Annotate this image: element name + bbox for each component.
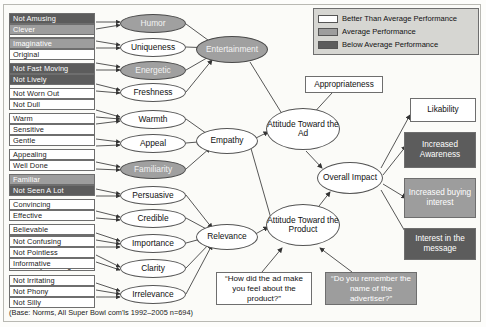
attribute-box[interactable]: Not Phony xyxy=(9,286,95,297)
factor-node-clarity[interactable]: Clarity xyxy=(120,259,186,278)
factor-node-warmth[interactable]: Warmth xyxy=(120,110,186,129)
factor-node-freshness[interactable]: Freshness xyxy=(120,83,186,102)
attribute-box[interactable]: Believable xyxy=(9,224,95,235)
attribute-box[interactable]: Gentle xyxy=(9,135,95,146)
attribute-label: Well Done xyxy=(13,162,48,169)
attribute-label: Informative xyxy=(13,260,51,267)
outcome-label: Increased Awareness xyxy=(405,140,475,159)
attribute-label: Not Lively xyxy=(13,76,46,83)
attitude-node-product[interactable]: Attitude Toward the Product xyxy=(266,204,340,246)
dimension-node-empathy[interactable]: Empathy xyxy=(196,128,258,154)
factor-node-humor[interactable]: Humor xyxy=(120,14,186,33)
attribute-box[interactable]: Not Silly xyxy=(9,297,95,308)
factor-label: Freshness xyxy=(133,88,172,97)
question-box-remember-advertiser[interactable]: “Do you remember the name of the adverti… xyxy=(325,272,417,305)
attribute-label: Gentle xyxy=(13,137,35,144)
attribute-box[interactable]: Not Worn Out xyxy=(9,88,95,99)
outcome-label: Interest in the message xyxy=(405,234,475,253)
outcome-box-interest-in-the-message[interactable]: Interest in the message xyxy=(404,228,476,260)
attribute-box[interactable]: Not Pointless xyxy=(9,247,95,258)
outcome-label: Increased buying interest xyxy=(405,188,475,207)
factor-label: Credible xyxy=(137,214,168,223)
outcome-box-likability[interactable]: Likability xyxy=(410,98,476,122)
attribute-box[interactable]: Not Confusing xyxy=(9,236,95,247)
attribute-box[interactable]: Not Irritating xyxy=(9,275,95,286)
factor-node-uniqueness[interactable]: Uniqueness xyxy=(120,38,186,57)
attribute-label: Clever xyxy=(13,26,35,33)
attribute-box[interactable]: Warm xyxy=(9,113,95,124)
legend-label: Below Average Performance xyxy=(342,40,438,49)
attribute-box[interactable]: Original xyxy=(9,49,95,60)
factor-label: Energetic xyxy=(135,66,170,75)
attribute-label: Not Phony xyxy=(13,288,48,295)
factor-node-familiarity[interactable]: Familiarity xyxy=(120,160,186,179)
attribute-box[interactable]: Not Dull xyxy=(9,99,95,110)
attribute-label: Sensitive xyxy=(13,126,44,133)
attribute-label: Not Worn Out xyxy=(13,90,59,97)
attribute-label: Not Irritating xyxy=(13,277,55,284)
legend: Better Than Average Performance Average … xyxy=(313,8,479,55)
attribute-box[interactable]: Not Fast Moving xyxy=(9,63,95,74)
attribute-label: Not Silly xyxy=(13,299,41,306)
attribute-box[interactable]: Appealing xyxy=(9,149,95,160)
attitude-node-ad[interactable]: Attitude Toward the Ad xyxy=(266,108,340,150)
attitude-label: Attitude Toward the Product xyxy=(267,216,339,235)
factor-label: Warmth xyxy=(138,115,167,124)
dimension-label: Empathy xyxy=(210,136,243,145)
factor-node-appeal[interactable]: Appeal xyxy=(120,134,186,153)
factor-node-energetic[interactable]: Energetic xyxy=(120,61,186,80)
attribute-label: Not Pointless xyxy=(13,249,58,256)
dimension-node-entertainment[interactable]: Entertainment xyxy=(196,36,268,63)
dimension-label: Entertainment xyxy=(206,45,258,54)
attribute-box[interactable]: Not Lively xyxy=(9,74,95,85)
attribute-label: Warm xyxy=(13,115,33,122)
factor-label: Clarity xyxy=(141,264,165,273)
outcome-box-increased-awareness[interactable]: Increased Awareness xyxy=(404,132,476,168)
outcome-box-increased-buying-interest[interactable]: Increased buying interest xyxy=(404,178,476,218)
legend-swatch-below-average xyxy=(318,41,338,49)
factor-label: Persuasive xyxy=(132,191,173,200)
question-label: “How did the ad make you feel about the … xyxy=(220,274,308,304)
factor-node-credible[interactable]: Credible xyxy=(120,209,186,228)
attribute-label: Not Amusing xyxy=(13,15,56,22)
question-label: “Do you remember the name of the adverti… xyxy=(329,274,413,304)
attribute-box[interactable]: Imaginative xyxy=(9,38,95,49)
attribute-box[interactable]: Familiar xyxy=(9,174,95,185)
dimension-node-relevance[interactable]: Relevance xyxy=(196,224,258,250)
moderator-label: Appropriateness xyxy=(314,80,374,90)
attribute-box[interactable]: Not Seen A Lot xyxy=(9,185,95,196)
legend-item: Below Average Performance xyxy=(318,38,474,51)
legend-label: Average Performance xyxy=(342,27,416,36)
attribute-label: Not Fast Moving xyxy=(13,65,68,72)
legend-swatch-better-than-average xyxy=(318,15,338,23)
factor-label: Uniqueness xyxy=(131,43,175,52)
legend-item: Better Than Average Performance xyxy=(318,12,474,25)
legend-swatch-average xyxy=(318,28,338,36)
overall-impact-node[interactable]: Overall Impact xyxy=(317,162,383,194)
legend-item: Average Performance xyxy=(318,25,474,38)
attribute-box[interactable]: Well Done xyxy=(9,160,95,171)
factor-node-persuasive[interactable]: Persuasive xyxy=(120,186,186,205)
attribute-box[interactable]: Not Amusing xyxy=(9,13,95,24)
attribute-label: Not Dull xyxy=(13,101,40,108)
factor-label: Irrelevance xyxy=(132,290,173,299)
dimension-label: Relevance xyxy=(207,232,247,241)
factor-node-importance[interactable]: Importance xyxy=(120,234,186,253)
attribute-label: Effective xyxy=(13,212,42,219)
attitude-label: Attitude Toward the Ad xyxy=(267,120,339,139)
attribute-box[interactable]: Sensitive xyxy=(9,124,95,135)
attribute-box[interactable]: Informative xyxy=(9,258,95,269)
factor-label: Importance xyxy=(132,239,174,248)
attribute-box[interactable]: Clever xyxy=(9,24,95,35)
attribute-label: Appealing xyxy=(13,151,47,158)
factor-node-irrelevance[interactable]: Irrelevance xyxy=(120,285,186,304)
factor-label: Appeal xyxy=(140,139,166,148)
moderator-node-appropriateness[interactable]: Appropriateness xyxy=(305,76,383,93)
attribute-label: Not Confusing xyxy=(13,238,61,245)
factor-label: Familiarity xyxy=(134,165,172,174)
attribute-box[interactable]: Effective xyxy=(9,210,95,221)
outcome-label: Likability xyxy=(427,105,458,115)
attribute-label: Not Seen A Lot xyxy=(13,187,64,194)
question-box-feel-about-product[interactable]: “How did the ad make you feel about the … xyxy=(216,272,312,305)
attribute-box[interactable]: Convincing xyxy=(9,199,95,210)
